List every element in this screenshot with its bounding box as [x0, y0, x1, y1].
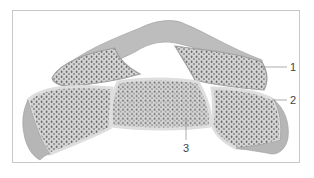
spongy-right-segment	[212, 88, 281, 149]
bone-cross-section-diagram	[0, 0, 314, 178]
label-3: 3	[183, 143, 189, 154]
label-1: 1	[290, 62, 296, 73]
spongy-center-segment	[111, 79, 210, 129]
label-2: 2	[290, 95, 296, 106]
